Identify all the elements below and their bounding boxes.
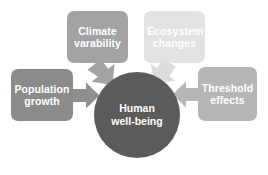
node-population-growth[interactable]: Population growth [11, 69, 73, 121]
node-ecosystem-changes-label: Ecosystem changes [144, 25, 205, 49]
node-human-well-being[interactable]: Human well-being [94, 72, 180, 158]
node-population-growth-label: Population growth [11, 83, 73, 107]
node-threshold-effects-label: Threshold effects [198, 82, 257, 106]
node-climate-variability-label: Climate varability [67, 25, 128, 49]
node-ecosystem-changes[interactable]: Ecosystem changes [144, 11, 205, 63]
diagram-canvas: Climate varability Ecosystem changes Pop… [0, 0, 268, 175]
node-threshold-effects[interactable]: Threshold effects [198, 67, 257, 121]
node-human-well-being-label: Human well-being [94, 102, 180, 127]
node-climate-variability[interactable]: Climate varability [67, 11, 128, 63]
